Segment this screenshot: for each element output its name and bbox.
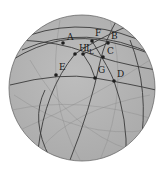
- label-L: L: [89, 48, 94, 56]
- point-H: [73, 52, 77, 56]
- point-A: [61, 41, 65, 45]
- point-D: [112, 79, 116, 83]
- label-C: C: [107, 46, 114, 56]
- point-E: [54, 73, 58, 77]
- point-C: [101, 55, 105, 59]
- label-B: B: [111, 31, 118, 41]
- label-A: A: [66, 32, 74, 42]
- spherical-geometry-diagram: A F B H I L C E G D: [0, 0, 164, 171]
- sphere-canvas: A F B H I L C E G D: [0, 0, 164, 171]
- label-E: E: [59, 62, 66, 72]
- point-F: [90, 39, 94, 43]
- label-D: D: [117, 69, 124, 79]
- label-F: F: [95, 28, 101, 38]
- point-G: [93, 76, 97, 80]
- label-G: G: [98, 65, 105, 75]
- point-B: [106, 41, 110, 45]
